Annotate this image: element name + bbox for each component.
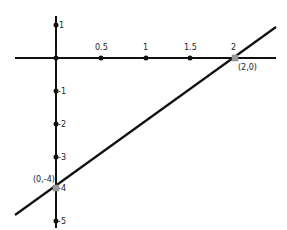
x-intercept-point bbox=[232, 55, 238, 61]
y-tick-label: -3 bbox=[58, 153, 66, 162]
y-tick-label: -2 bbox=[58, 120, 66, 129]
coordinate-plot: 0.5 1 1.5 2 1 -1 -2 -3 -4 -5 (2,0) (0,-4… bbox=[0, 0, 287, 230]
origin-dot bbox=[54, 56, 59, 61]
x-tick-label: 0.5 bbox=[95, 43, 108, 52]
x-tick-dot bbox=[99, 56, 104, 61]
y-tick-label: -5 bbox=[58, 217, 66, 226]
x-intercept-label: (2,0) bbox=[238, 63, 257, 72]
y-intercept-point bbox=[53, 185, 59, 191]
x-tick-label: 2 bbox=[231, 43, 236, 52]
x-tick-dot bbox=[144, 56, 149, 61]
y-tick-label: -1 bbox=[58, 87, 66, 96]
x-tick-dot bbox=[188, 56, 193, 61]
y-intercept-label: (0,-4) bbox=[33, 175, 55, 184]
x-tick-label: 1 bbox=[143, 43, 148, 52]
x-tick-label: 1.5 bbox=[184, 43, 197, 52]
y-tick-label: 1 bbox=[59, 21, 64, 30]
y-tick-dot bbox=[54, 23, 59, 28]
